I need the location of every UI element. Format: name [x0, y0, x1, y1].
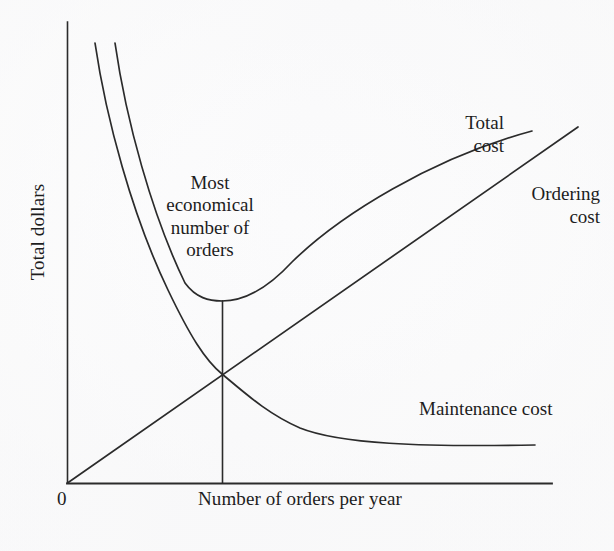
x-axis-title: Number of orders per year: [150, 489, 450, 509]
ordering-cost-line: [68, 127, 579, 483]
total-cost-series-label: Total cost: [418, 112, 504, 158]
plot-area: [0, 0, 614, 551]
inventory-cost-chart: Total dollars Number of orders per year …: [0, 0, 614, 551]
y-axis-title: Total dollars: [28, 152, 48, 312]
most-economical-number-of-orders-annotation: Most economical number of orders: [148, 172, 272, 262]
ordering-cost-series-label: Ordering cost: [486, 183, 600, 229]
maintenance-cost-series-label: Maintenance cost: [419, 399, 552, 419]
origin-tick-label: 0: [57, 489, 67, 509]
